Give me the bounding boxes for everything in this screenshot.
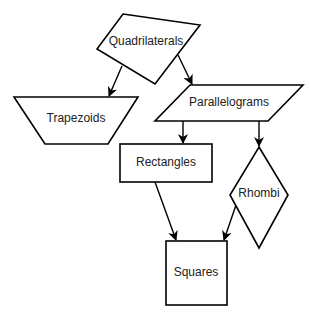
node-parallelograms: Parallelograms [155,85,303,121]
parallelograms-label: Parallelograms [189,95,269,109]
trapezoids-label: Trapezoids [47,111,106,125]
edge-quadrilaterals-trapezoids [109,66,122,96]
node-quadrilaterals: Quadrilaterals [97,14,200,84]
rectangles-label: Rectangles [136,155,196,169]
rhombi-label: Rhombi [238,186,279,200]
squares-label: Squares [174,265,219,279]
quadrilaterals-shape [97,14,200,84]
quadrilateral-hierarchy-diagram: Quadrilaterals Trapezoids Parallelograms… [0,0,311,316]
node-trapezoids: Trapezoids [14,97,138,144]
edge-quadrilaterals-parallelograms [178,55,192,84]
node-squares: Squares [166,241,227,305]
edge-rhombi-squares [224,205,236,240]
edge-rectangles-squares [155,182,176,240]
node-rectangles: Rectangles [120,144,212,182]
node-rhombi: Rhombi [230,147,288,248]
quadrilaterals-label: Quadrilaterals [109,34,184,48]
